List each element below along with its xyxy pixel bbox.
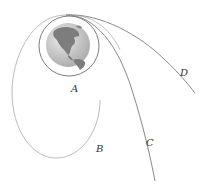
label-a: A (71, 84, 78, 94)
orbit-diagram: A B C D (0, 0, 210, 188)
orbit-diagram-svg (0, 0, 210, 188)
label-c: C (146, 138, 154, 148)
label-d: D (180, 68, 188, 78)
earth-icon (46, 23, 90, 70)
label-b: B (96, 144, 103, 154)
